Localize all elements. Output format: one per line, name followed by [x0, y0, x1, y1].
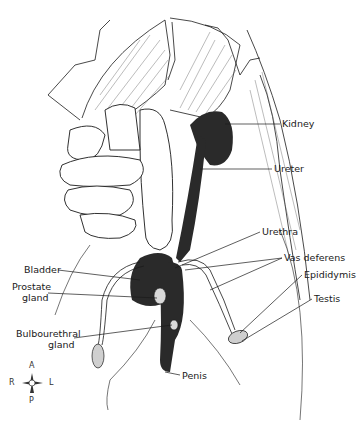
label-bulbourethral-line1: Bulbourethral [16, 328, 81, 339]
label-ureter: Ureter [274, 163, 304, 174]
label-prostate-line2: gland [22, 292, 49, 303]
anatomy-illustration [0, 0, 361, 421]
label-urethra: Urethra [262, 226, 298, 237]
label-prostate-line1: Prostate [12, 281, 51, 292]
compass-rose [22, 373, 43, 393]
label-epididymis: Epididymis [304, 269, 356, 280]
compass-anterior: A [29, 361, 34, 370]
compass-posterior: P [29, 396, 34, 405]
compass-left: L [49, 378, 53, 387]
testis-left-shape [227, 328, 250, 346]
testis-right-shape [92, 344, 104, 368]
intestines [60, 104, 173, 250]
label-kidney: Kidney [282, 118, 314, 129]
label-penis: Penis [182, 370, 207, 381]
label-bladder: Bladder [24, 264, 61, 275]
label-bulbourethral-line2: gland [48, 339, 75, 350]
label-vas-deferens: Vas deferens [284, 252, 345, 263]
penis-shape [160, 262, 184, 372]
compass-right: R [9, 378, 15, 387]
label-testis: Testis [314, 293, 340, 304]
ureter-shape [176, 135, 206, 262]
